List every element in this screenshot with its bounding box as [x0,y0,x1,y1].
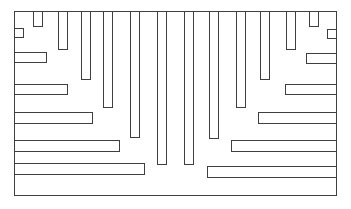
top-bar-3 [81,11,91,80]
top-bar-2 [58,11,68,50]
top-bar-11 [286,11,296,50]
top-bar-7 [184,11,194,165]
top-bar-9 [236,11,246,108]
top-bar-12 [309,11,319,27]
left-bar-3 [14,84,68,95]
left-bar-4 [14,112,93,124]
top-bar-5 [130,11,140,138]
left-bar-6 [14,163,145,175]
left-bar-1 [14,28,24,38]
top-bar-8 [209,11,219,139]
right-bar-3 [285,84,337,95]
top-bar-10 [260,11,270,80]
right-bar-6 [207,166,337,178]
top-bar-4 [103,11,113,108]
right-bar-4 [258,112,337,124]
top-bar-1 [33,11,43,27]
maze-pattern-figure [0,0,351,209]
right-bar-5 [231,140,337,152]
top-bar-6 [157,11,167,165]
right-bar-2 [306,53,337,64]
left-bar-5 [14,140,120,152]
left-bar-2 [14,52,47,63]
right-bar-1 [327,29,337,39]
